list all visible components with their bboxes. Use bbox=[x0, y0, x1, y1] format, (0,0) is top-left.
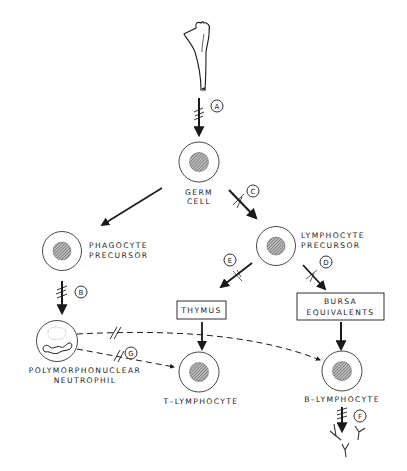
marker-g: G bbox=[125, 347, 137, 359]
arrow-b-lymphocyte-to-antibodies bbox=[337, 407, 347, 431]
bursa-label: BURSA bbox=[324, 297, 357, 306]
b-lymphocyte-cell bbox=[322, 351, 362, 391]
block-squiggle-icon bbox=[306, 270, 317, 282]
block-zigzag-icon bbox=[114, 350, 124, 362]
svg-text:G: G bbox=[128, 350, 133, 358]
svg-text:A: A bbox=[215, 103, 220, 111]
phagocyte-precursor-label-2: PRECURSOR bbox=[89, 251, 148, 260]
t-lymphocyte-label: T–LYMPHOCYTE bbox=[162, 397, 238, 406]
arrow-phagocyte-to-neutrophil bbox=[56, 281, 67, 313]
nucleus-icon bbox=[267, 237, 285, 255]
lymphocyte-precursor-label-2: PRECURSOR bbox=[301, 241, 360, 250]
block-squiggle-icon bbox=[337, 408, 347, 419]
svg-text:D: D bbox=[323, 259, 328, 267]
block-squiggle-icon bbox=[56, 286, 67, 298]
svg-text:C: C bbox=[251, 188, 256, 196]
arrow-lymphocyte-to-bursa bbox=[303, 265, 325, 289]
nucleus-icon bbox=[190, 153, 209, 172]
phagocyte-precursor-cell bbox=[43, 232, 82, 271]
t-lymphocyte-cell bbox=[179, 352, 219, 392]
germ-cell bbox=[179, 142, 219, 182]
bursa-label-2: EQUIVALENTS bbox=[306, 308, 374, 317]
svg-text:F: F bbox=[358, 413, 362, 421]
nucleus-icon bbox=[333, 362, 352, 381]
neutrophil-label: POLYMORPHONUCLEAR bbox=[29, 366, 141, 375]
b-lymphocyte-label: B–LYMPHOCYTE bbox=[304, 395, 380, 404]
femur-bone-icon bbox=[184, 22, 210, 90]
arrow-bone-to-germ-cell bbox=[194, 98, 204, 135]
immune-cell-diagram: A GERM CELL C PHAGOCYTE PRECURSOR B LYMP… bbox=[0, 0, 407, 471]
germ-cell-label-2: CELL bbox=[187, 197, 211, 206]
svg-text:B: B bbox=[79, 289, 84, 297]
marker-f: F bbox=[354, 410, 366, 422]
lymphocyte-precursor-label: LYMPHOCYTE bbox=[301, 231, 365, 240]
svg-text:E: E bbox=[228, 257, 232, 265]
marker-b: B bbox=[75, 286, 87, 298]
neutrophil-cell bbox=[37, 321, 78, 362]
thymus-label: THYMUS bbox=[180, 306, 221, 315]
bursa-equivalents-box: BURSA EQUIVALENTS bbox=[297, 293, 384, 320]
lymphocyte-precursor-cell bbox=[257, 227, 296, 266]
antibody-icon bbox=[330, 424, 365, 457]
thymus-box: THYMUS bbox=[177, 301, 226, 319]
marker-a: A bbox=[211, 100, 223, 112]
arrow-lymphocyte-to-thymus bbox=[221, 263, 252, 287]
nucleus-icon bbox=[190, 363, 209, 382]
marker-d: D bbox=[320, 256, 332, 268]
germ-cell-label: GERM bbox=[185, 188, 213, 197]
block-squiggle-icon bbox=[194, 108, 204, 120]
marker-e: E bbox=[224, 254, 236, 266]
nucleus-icon bbox=[53, 242, 71, 260]
neutrophil-label-2: NEUTROPHIL bbox=[54, 376, 117, 385]
marker-c: C bbox=[247, 185, 259, 197]
arrow-germ-to-phagocyte bbox=[102, 188, 162, 225]
phagocyte-precursor-label: PHAGOCYTE bbox=[89, 241, 148, 250]
